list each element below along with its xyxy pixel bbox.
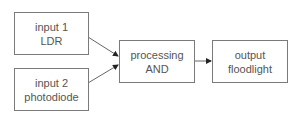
output-label: output bbox=[235, 48, 266, 62]
output-sublabel: floodlight bbox=[228, 62, 272, 76]
output-box: output floodlight bbox=[212, 40, 288, 83]
arrow-input1-to-processing bbox=[88, 37, 118, 56]
input2-sublabel: photodiode bbox=[24, 90, 78, 104]
input1-label: input 1 bbox=[35, 20, 68, 34]
processing-label: processing bbox=[130, 48, 183, 62]
processing-sublabel: AND bbox=[145, 62, 168, 76]
input1-box: input 1 LDR bbox=[14, 12, 89, 55]
input2-label: input 2 bbox=[35, 76, 68, 90]
arrow-input2-to-processing bbox=[88, 65, 118, 83]
input2-box: input 2 photodiode bbox=[14, 68, 89, 111]
input1-sublabel: LDR bbox=[40, 34, 62, 48]
processing-box: processing AND bbox=[119, 40, 195, 83]
